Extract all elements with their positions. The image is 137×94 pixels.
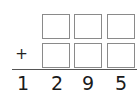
result-digit-thousands: 1	[15, 73, 31, 93]
sum-line	[12, 69, 137, 70]
addend-1-hundreds-box[interactable]	[42, 14, 70, 39]
addend-1-ones-box[interactable]	[107, 14, 135, 39]
addend-1-tens-box[interactable]	[74, 14, 102, 39]
result-digit-hundreds: 2	[49, 73, 65, 93]
result-digit-ones: 5	[113, 73, 129, 93]
addend-2-tens-box[interactable]	[74, 43, 102, 68]
addend-2-ones-box[interactable]	[107, 43, 135, 68]
plus-sign: +	[15, 46, 28, 62]
result-digit-tens: 9	[80, 73, 96, 93]
addend-2-hundreds-box[interactable]	[42, 43, 70, 68]
